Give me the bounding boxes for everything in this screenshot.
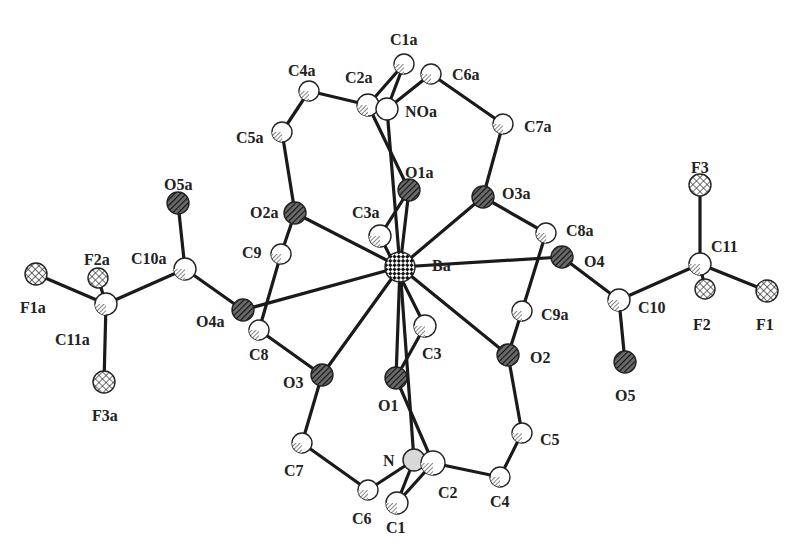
atom-label-c10: C10 [638, 300, 666, 316]
atom-c4 [490, 467, 510, 487]
atom-label-c1a: C1a [390, 32, 418, 48]
atom-o1 [385, 367, 407, 389]
atom-label-c11a: C11a [55, 332, 90, 348]
bond-c7-c6 [302, 443, 368, 490]
atom-c2 [421, 451, 445, 475]
atom-c7a [493, 114, 513, 134]
atom-c6a [421, 64, 441, 84]
bond-c10a-c11a [106, 269, 185, 304]
atom-c11a [95, 293, 117, 315]
atom-c10 [608, 289, 630, 311]
atom-c4a [299, 81, 319, 101]
atom-label-c9a: C9a [541, 307, 569, 323]
atom-c10a [174, 258, 196, 280]
atom-o4 [551, 246, 573, 268]
atom-noa [376, 98, 398, 120]
atom-c8a [536, 223, 556, 243]
atom-c11 [689, 253, 711, 275]
atom-label-o4: O4 [584, 254, 604, 270]
atom-f3a [93, 371, 115, 393]
atom-label-c4a: C4a [288, 63, 316, 79]
atom-label-n: N [383, 453, 395, 469]
bond-c11a-f3a [104, 304, 106, 382]
atom-label-f1a: F1a [20, 300, 46, 316]
atom-o3 [311, 364, 333, 386]
atom-label-c8: C8 [249, 347, 269, 363]
atom-o5 [614, 351, 636, 373]
atom-label-c7: C7 [284, 463, 304, 479]
atom-label-o5a: O5a [164, 177, 192, 193]
atom-o4a [232, 299, 254, 321]
atom-c6 [358, 480, 378, 500]
atom-label-noa: NOa [405, 104, 437, 120]
atom-c7 [292, 433, 312, 453]
atom-c3 [414, 315, 436, 337]
atom-label-c7a: C7a [524, 119, 552, 135]
atom-o3a [472, 186, 494, 208]
atom-o2a [284, 202, 306, 224]
bond-c10-c11 [619, 264, 700, 300]
atom-label-c6: C6 [352, 511, 372, 527]
bond-c5a-o2a [282, 132, 295, 213]
atom-c1a [394, 54, 414, 74]
atom-o2 [497, 344, 519, 366]
atom-ba [385, 252, 415, 282]
atom-label-c10a: C10a [131, 251, 167, 267]
atom-c9a [512, 301, 532, 321]
atom-label-c2: C2 [438, 485, 458, 501]
atom-label-f1: F1 [756, 317, 774, 333]
atom-label-f3a: F3a [92, 408, 118, 424]
atom-label-o3: O3 [283, 375, 303, 391]
atom-label-c5a: C5a [236, 130, 264, 146]
atom-f1 [756, 280, 778, 302]
atom-f2 [695, 279, 715, 299]
atom-label-c2a: C2a [345, 70, 373, 86]
atom-label-o1: O1 [378, 398, 398, 414]
atom-o5a [167, 192, 189, 214]
bond-ba-o1 [396, 267, 400, 378]
atom-c1 [386, 492, 408, 514]
atom-c5 [512, 423, 532, 443]
atom-label-o5: O5 [615, 388, 635, 404]
atom-c2a [357, 94, 379, 116]
atom-f2a [88, 268, 108, 288]
atom-label-c3a: C3a [352, 205, 380, 221]
atom-label-f2: F2 [693, 317, 711, 333]
atom-label-c9: C9 [242, 245, 262, 261]
atom-o1a [398, 179, 420, 201]
atom-f3 [689, 174, 711, 196]
atom-f1a [25, 263, 47, 285]
atom-label-ba: Ba [432, 258, 451, 274]
atom-label-c8a: C8a [566, 223, 594, 239]
bond-c5-o2 [508, 355, 522, 433]
atom-label-c1: C1 [386, 520, 406, 536]
atom-label-o2: O2 [530, 350, 550, 366]
atom-label-o2a: O2a [250, 205, 278, 221]
bond-ba-o3 [322, 267, 400, 375]
atom-label-c11: C11 [711, 239, 738, 255]
atom-c9 [271, 244, 291, 264]
atom-label-c5: C5 [540, 432, 560, 448]
atom-label-f3: F3 [691, 160, 709, 176]
bond-ba-n [400, 267, 414, 460]
atom-label-c3: C3 [422, 346, 442, 362]
atom-c5a [272, 122, 292, 142]
bonds-layer [36, 64, 767, 503]
atom-label-c4: C4 [490, 494, 510, 510]
atom-label-o4a: O4a [196, 314, 224, 330]
atom-c8 [249, 320, 269, 340]
atom-label-f2a: F2a [84, 252, 110, 268]
bond-c9-c8 [259, 254, 281, 330]
atom-label-c6a: C6a [452, 67, 480, 83]
molecular-structure-diagram: BaO1aO2aO3aO4O4aO3O1O2O5aO5C1aC2aNOaC4aC… [0, 0, 798, 548]
atom-label-o3a: O3a [502, 186, 530, 202]
atom-c3a [369, 225, 391, 247]
structure-canvas [0, 0, 798, 548]
atom-label-o1a: O1a [405, 165, 433, 181]
bond-c8a-c9a [522, 233, 546, 311]
